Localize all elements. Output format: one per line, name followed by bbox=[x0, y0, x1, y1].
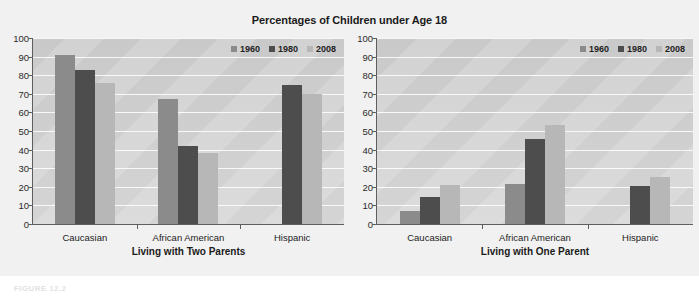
legend-swatch-icon bbox=[307, 46, 313, 52]
y-axis-tick bbox=[372, 38, 376, 39]
y-axis-tick bbox=[372, 94, 376, 95]
plot-axes-right: 0102030405060708090100 196019802008 bbox=[350, 38, 693, 234]
y-axis-tick bbox=[28, 205, 32, 206]
x-axis-category-label: Caucasian bbox=[62, 232, 107, 243]
bar bbox=[198, 153, 218, 224]
bar bbox=[400, 211, 420, 224]
legend-swatch-icon bbox=[618, 46, 624, 52]
legend-swatch-icon bbox=[580, 46, 586, 52]
x-axis-category-label: Hispanic bbox=[274, 232, 310, 243]
legend-swatch-icon bbox=[656, 46, 662, 52]
y-axis-tick bbox=[28, 38, 32, 39]
bar-groups-right bbox=[377, 38, 693, 224]
x-axis-category-label: African American bbox=[153, 232, 225, 243]
legend-label: 1980 bbox=[278, 44, 298, 54]
figure-caption: FIGURE 12.2 bbox=[14, 284, 66, 293]
bar-group bbox=[588, 38, 693, 224]
bar bbox=[650, 177, 670, 224]
legend-item-2008[interactable]: 2008 bbox=[307, 44, 336, 54]
chart-panel-left: 0102030405060708090100 196019802008 Cauc… bbox=[6, 38, 344, 266]
y-axis-tick bbox=[372, 187, 376, 188]
bar bbox=[302, 94, 322, 224]
legend-item-1960[interactable]: 1960 bbox=[231, 44, 260, 54]
y-axis-tick bbox=[28, 112, 32, 113]
bar-group bbox=[377, 38, 482, 224]
plot-area-right bbox=[377, 38, 693, 224]
y-axis-tick-label: 100 bbox=[357, 34, 373, 43]
x-axis-line-left bbox=[32, 224, 344, 225]
bar-groups-left bbox=[33, 38, 344, 224]
x-axis-tick bbox=[482, 225, 483, 229]
legend-item-1960[interactable]: 1960 bbox=[580, 44, 609, 54]
legend-item-2008[interactable]: 2008 bbox=[656, 44, 685, 54]
x-axis-tick bbox=[137, 225, 138, 229]
bar bbox=[505, 184, 525, 224]
y-axis-tick bbox=[28, 187, 32, 188]
y-axis-tick bbox=[372, 131, 376, 132]
y-axis-tick bbox=[28, 150, 32, 151]
page-title: Percentages of Children under Age 18 bbox=[0, 14, 699, 26]
y-axis-tick bbox=[28, 94, 32, 95]
y-axis-tick bbox=[28, 57, 32, 58]
bar-group bbox=[137, 38, 241, 224]
plot-axes-left: 0102030405060708090100 196019802008 bbox=[6, 38, 344, 234]
x-axis-category-label: Hispanic bbox=[622, 232, 658, 243]
figure-container: Percentages of Children under Age 18 010… bbox=[0, 0, 699, 276]
y-axis-tick bbox=[372, 150, 376, 151]
bar-group bbox=[33, 38, 137, 224]
bar bbox=[440, 185, 460, 224]
chart-legend-left: 196019802008 bbox=[231, 44, 336, 54]
bar bbox=[95, 83, 115, 224]
y-axis-tick-label: 100 bbox=[13, 34, 29, 43]
x-axis-category-label: African American bbox=[499, 232, 571, 243]
y-axis-tick bbox=[28, 75, 32, 76]
legend-label: 1980 bbox=[627, 44, 647, 54]
bar bbox=[420, 197, 440, 224]
legend-label: 2008 bbox=[665, 44, 685, 54]
bar bbox=[545, 125, 565, 224]
bar-group bbox=[240, 38, 344, 224]
legend-item-1980[interactable]: 1980 bbox=[618, 44, 647, 54]
bar bbox=[158, 99, 178, 224]
y-axis-tick bbox=[28, 131, 32, 132]
y-axis-tick bbox=[28, 168, 32, 169]
legend-label: 1960 bbox=[240, 44, 260, 54]
y-axis-tick bbox=[372, 57, 376, 58]
bar bbox=[75, 70, 95, 224]
bar bbox=[525, 139, 545, 224]
bar bbox=[630, 186, 650, 224]
chart-panel-right: 0102030405060708090100 196019802008 Cauc… bbox=[350, 38, 693, 266]
legend-swatch-icon bbox=[269, 46, 275, 52]
x-axis-title-left: Living with Two Parents bbox=[33, 246, 344, 257]
legend-swatch-icon bbox=[231, 46, 237, 52]
bar bbox=[282, 85, 302, 225]
x-axis-category-label: Caucasian bbox=[407, 232, 452, 243]
y-axis-tick bbox=[372, 75, 376, 76]
plot-area-left bbox=[33, 38, 344, 224]
y-axis-tick bbox=[372, 112, 376, 113]
bar bbox=[178, 146, 198, 224]
x-axis-line-right bbox=[376, 224, 693, 225]
chart-legend-right: 196019802008 bbox=[580, 44, 685, 54]
bar-group bbox=[482, 38, 587, 224]
x-axis-title-right: Living with One Parent bbox=[377, 246, 693, 257]
y-axis-tick bbox=[372, 168, 376, 169]
y-axis-tick bbox=[372, 205, 376, 206]
x-axis-tick bbox=[240, 225, 241, 229]
x-axis-tick bbox=[588, 225, 589, 229]
legend-label: 1960 bbox=[589, 44, 609, 54]
legend-label: 2008 bbox=[316, 44, 336, 54]
bar bbox=[55, 55, 75, 224]
legend-item-1980[interactable]: 1980 bbox=[269, 44, 298, 54]
